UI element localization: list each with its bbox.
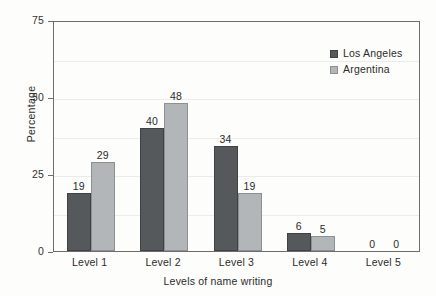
bar bbox=[311, 236, 335, 251]
bar-chart: Percentage 0255075 1929404834196500 Los … bbox=[0, 0, 436, 296]
plot-area: 1929404834196500 Los Angeles Argentina bbox=[53, 21, 420, 252]
bar bbox=[164, 103, 188, 251]
legend-label: Los Angeles bbox=[343, 47, 402, 60]
y-tick-label: 75 bbox=[18, 14, 44, 26]
y-tick-label: 50 bbox=[18, 91, 44, 103]
bar bbox=[214, 146, 238, 251]
legend-label: Argentina bbox=[343, 63, 390, 76]
bar-value-label: 34 bbox=[206, 133, 246, 145]
x-axis-title: Levels of name writing bbox=[0, 275, 436, 287]
bar-value-label: 0 bbox=[376, 238, 416, 250]
dark-gray-swatch-icon bbox=[330, 50, 338, 58]
y-axis-title: Percentage bbox=[25, 59, 37, 169]
y-tick-label: 25 bbox=[18, 168, 44, 180]
bar bbox=[91, 162, 115, 251]
x-tick-label: Level 4 bbox=[275, 256, 345, 268]
bar bbox=[238, 193, 262, 252]
legend: Los Angeles Argentina bbox=[330, 47, 402, 79]
y-tick-label: 0 bbox=[18, 245, 44, 257]
gridline-major bbox=[54, 99, 419, 100]
x-tick-label: Level 5 bbox=[348, 256, 418, 268]
bar bbox=[287, 233, 311, 252]
x-tick-label: Level 1 bbox=[55, 256, 125, 268]
x-tick-label: Level 3 bbox=[202, 256, 272, 268]
x-tick-label: Level 2 bbox=[128, 256, 198, 268]
light-gray-swatch-icon bbox=[330, 66, 338, 74]
bar bbox=[140, 128, 164, 251]
bar-value-label: 19 bbox=[230, 180, 270, 192]
bar bbox=[67, 193, 91, 252]
bar-value-label: 48 bbox=[156, 90, 196, 102]
legend-item-argentina[interactable]: Argentina bbox=[330, 63, 402, 76]
bar-value-label: 5 bbox=[303, 223, 343, 235]
legend-item-los-angeles[interactable]: Los Angeles bbox=[330, 47, 402, 60]
bar-value-label: 29 bbox=[83, 149, 123, 161]
